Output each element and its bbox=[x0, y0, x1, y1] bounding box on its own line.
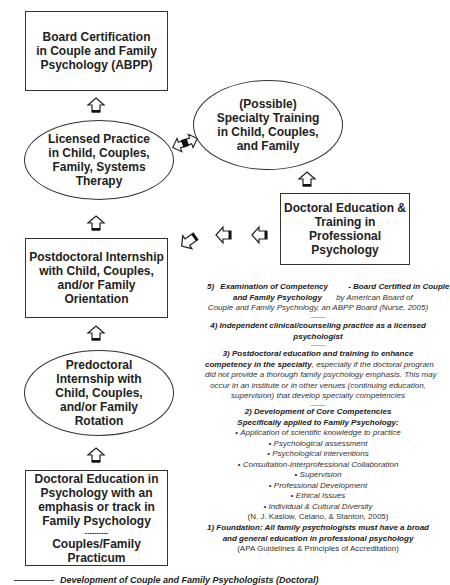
competency-bullet: Psychological interventions bbox=[205, 449, 431, 460]
separator: ---------- bbox=[205, 342, 431, 349]
up-arrow-icon bbox=[86, 447, 106, 464]
left-arrow-icon bbox=[251, 225, 269, 245]
node-text: Child, Couples, bbox=[55, 386, 142, 400]
up-arrow-icon bbox=[86, 325, 106, 342]
competency-bullet: Consultation-Interprofessional Collabora… bbox=[205, 460, 431, 471]
step-title: and Family Psychology bbox=[233, 293, 322, 302]
step-title: and general education in professional ps… bbox=[223, 534, 414, 543]
up-arrow-icon bbox=[297, 171, 317, 188]
node-doctoral-education-training: Doctoral Education & Training in Profess… bbox=[280, 193, 410, 265]
competency-bullet: Application of scientific knowledge to p… bbox=[205, 428, 431, 439]
node-postdoctoral-internship: Postdoctoral Internship with Child, Coup… bbox=[25, 238, 168, 318]
node-text: in Child, Couples, bbox=[48, 146, 150, 160]
node-text: Orientation bbox=[29, 292, 164, 306]
separator: ---------- bbox=[205, 314, 431, 321]
node-text: emphasis or track in bbox=[34, 500, 158, 514]
step-detail: - Board Certified in Couple bbox=[348, 282, 449, 291]
note-step-5: 5) Examination of Competency - Board Cer… bbox=[205, 282, 431, 321]
node-text: Couples/Family bbox=[34, 537, 158, 551]
competency-bullet: Supervision bbox=[205, 470, 431, 481]
node-text: Rotation bbox=[55, 414, 142, 428]
node-text: Predoctoral bbox=[55, 358, 142, 372]
competency-bullet: Individual & Cultural Diversity bbox=[205, 502, 431, 513]
step-detail: did not provide a thorough family psycho… bbox=[205, 370, 431, 381]
node-text: Psychology bbox=[284, 243, 406, 257]
step-title: psychologist bbox=[293, 332, 342, 341]
node-text: in Couple and Family bbox=[36, 44, 157, 58]
node-text: Licensed Practice bbox=[48, 132, 150, 146]
step-detail: Couple and Family Psychology, an ABPP Bo… bbox=[205, 303, 431, 314]
citation: (N. J. Kaslow, Celano, & Stanton, 2005) bbox=[205, 512, 431, 523]
citation: (APA Guidelines & Principles of Accredit… bbox=[205, 544, 431, 555]
separator: ---------- bbox=[34, 528, 158, 537]
step-title: Examination of Competency bbox=[220, 282, 328, 291]
bidirectional-arrow-icon bbox=[170, 130, 200, 156]
step-detail: , especially if the doctoral program bbox=[312, 360, 434, 369]
node-text: Board Certification bbox=[36, 30, 157, 44]
note-step-2: 2) Development of Core Competencies Spec… bbox=[205, 407, 431, 530]
step-detail: occur in an institute or in other venues… bbox=[205, 381, 431, 392]
note-step-4: 4) Independent clinical/counseling pract… bbox=[205, 321, 431, 349]
node-text: Specialty Training bbox=[217, 111, 320, 125]
step-title: 2) Development of Core Competencies bbox=[245, 407, 392, 416]
step-title: 3) Postdoctoral education and training t… bbox=[223, 349, 414, 358]
node-text: in Child, Couples, bbox=[217, 125, 320, 139]
up-arrow-icon bbox=[86, 215, 106, 232]
node-text: (Possible) bbox=[217, 97, 320, 111]
node-doctoral-education-psychology: Doctoral Education in Psychology with an… bbox=[25, 470, 168, 566]
diagonal-arrow-icon bbox=[178, 230, 200, 252]
node-text: Family Psychology bbox=[34, 514, 158, 528]
node-text: Doctoral Education in bbox=[34, 472, 158, 486]
step-title: Specifically applied to Family Psycholog… bbox=[237, 418, 398, 427]
up-arrow-icon bbox=[86, 97, 106, 114]
node-text: Internship with bbox=[55, 372, 142, 386]
node-text: Practicum bbox=[34, 551, 158, 565]
node-text: Doctoral Education & bbox=[284, 201, 406, 215]
node-text: with Child, Couples, bbox=[29, 264, 164, 278]
node-board-certification: Board Certification in Couple and Family… bbox=[25, 11, 168, 91]
node-text: and/or Family bbox=[29, 278, 164, 292]
step-detail: supervision) that develop specialty comp… bbox=[205, 391, 431, 402]
node-text: and Family bbox=[217, 139, 320, 153]
step-title: competency in the specialty bbox=[205, 360, 312, 369]
node-specialty-training: (Possible) Specialty Training in Child, … bbox=[193, 80, 343, 170]
step-detail: by American Board of bbox=[336, 293, 413, 302]
node-text: Training in bbox=[284, 215, 406, 229]
node-text: and/or Family bbox=[55, 400, 142, 414]
competency-bullet: Professional Development bbox=[205, 481, 431, 492]
competency-bullet: Psychological assessment bbox=[205, 439, 431, 450]
step-title: 1) Foundation: All family psychologists … bbox=[207, 523, 429, 532]
note-step-1: 1) Foundation: All family psychologists … bbox=[205, 523, 431, 555]
node-text: Family, Systems bbox=[48, 160, 150, 174]
node-text: Psychology with an bbox=[34, 486, 158, 500]
caption-rule bbox=[14, 580, 54, 581]
note-step-3: 3) Postdoctoral education and training t… bbox=[205, 349, 431, 409]
left-arrow-icon bbox=[215, 225, 233, 245]
step-title: 4) Independent clinical/counseling pract… bbox=[210, 321, 426, 330]
node-text: Therapy bbox=[48, 174, 150, 188]
competency-bullet: Ethical Issues bbox=[205, 491, 431, 502]
node-text: Postdoctoral Internship bbox=[29, 250, 164, 264]
node-licensed-practice: Licensed Practice in Child, Couples, Fam… bbox=[24, 120, 174, 200]
node-text: Psychology (ABPP) bbox=[36, 58, 157, 72]
node-text: Professional bbox=[284, 229, 406, 243]
node-predoctoral-internship: Predoctoral Internship with Child, Coupl… bbox=[24, 350, 174, 436]
step-number: 5) bbox=[207, 282, 214, 291]
figure-caption: Development of Couple and Family Psychol… bbox=[60, 575, 319, 585]
